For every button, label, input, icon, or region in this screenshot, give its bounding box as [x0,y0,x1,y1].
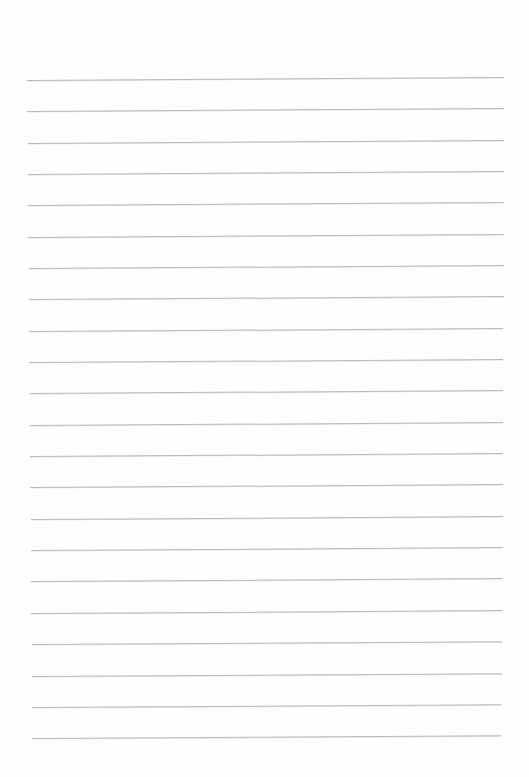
ruled-line [29,296,504,300]
ruled-line [32,673,502,677]
ruled-line [29,359,503,363]
ruled-line [27,108,504,112]
ruled-line [29,328,503,332]
ruled-line [31,547,502,551]
ruled-line [28,140,504,144]
ruled-line [32,641,502,645]
lined-paper-sheet [0,0,529,777]
ruled-line [30,422,503,426]
ruled-line [32,735,501,739]
ruled-line [29,265,504,269]
ruled-line [31,578,502,582]
ruled-line [30,484,503,488]
ruled-line [32,704,501,708]
ruled-line [27,77,504,81]
ruled-line [28,171,504,175]
ruled-line [30,453,503,457]
ruled-line [31,610,502,614]
ruled-line [28,234,504,238]
ruled-line [28,202,504,206]
ruled-line [30,390,503,394]
ruled-line [31,516,503,520]
